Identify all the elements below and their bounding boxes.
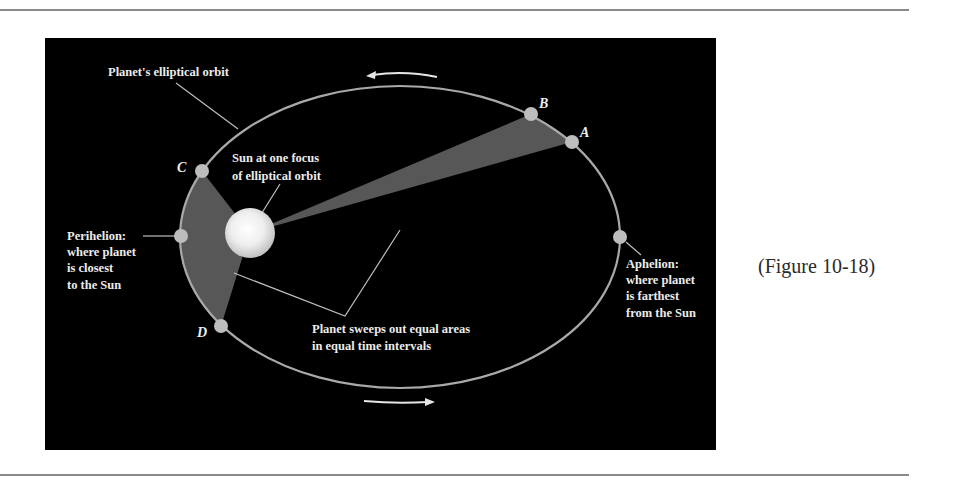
equal-areas-label-line1: Planet sweeps out equal areas [312,322,470,336]
point-label-d: D [196,325,207,340]
aphelion-label-line3: is farthest [626,289,680,303]
sun [225,208,275,258]
bottom-rule [0,474,909,476]
planet-point-a [565,135,579,149]
sun-leader-line [260,184,280,216]
perihelion-label-line2: where planet [67,245,137,259]
planet-point-aphelion [613,230,627,244]
sun-label-line1: Sun at one focus [232,151,319,165]
orbit-label: Planet's elliptical orbit [108,65,230,79]
planet-point-perihelion [174,229,188,243]
aphelion-label-line4: from the Sun [626,306,696,320]
planet-point-d [214,319,228,333]
equal-areas-label-line2: in equal time intervals [312,339,431,353]
sun-label-line2: of elliptical orbit [232,169,322,183]
arrow-right-icon [364,398,435,406]
perihelion-label-line4: to the Sun [67,278,121,292]
point-label-a: A [579,125,589,140]
arrow-left-icon [366,71,437,79]
aphelion-leader-line [626,242,641,255]
aphelion-label-line2: where planet [626,273,696,287]
perihelion-label-line3: is closest [67,261,114,275]
planet-point-c [195,164,209,178]
kepler-second-law-diagram: B A C D Planet's elliptical orbit Sun at… [0,0,953,483]
point-label-b: B [538,96,548,111]
point-label-c: C [177,160,187,175]
planet-point-b [524,107,538,121]
orbit-leader-line [176,83,238,129]
perihelion-label-line1: Perihelion: [67,229,126,243]
aphelion-label-line1: Aphelion: [626,257,679,271]
figure-caption: (Figure 10-18) [758,255,875,278]
